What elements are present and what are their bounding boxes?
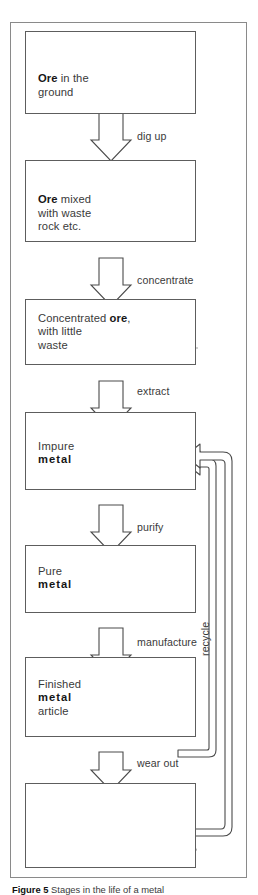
transition-label-manufacture: manufacture (137, 636, 197, 648)
stage-label-bold: metal (38, 691, 72, 703)
stage-box-worn-out-article[interactable] (25, 783, 196, 868)
stage-label-pre: Concentrated (38, 312, 110, 324)
stage-label-bold: Ore (38, 72, 58, 84)
stage-label-ore-in-ground: Ore in the ground (38, 59, 89, 99)
stage-label-finished-article: Finished metal article (38, 678, 81, 718)
transition-label-purify: purify (137, 521, 164, 533)
stage-label-bold: metal (38, 453, 72, 465)
stage-label-ore-with-waste: Ore mixed with waste rock etc. (38, 180, 91, 234)
stage-label-bold: ore (110, 312, 128, 324)
stage-label-bold: metal (38, 578, 72, 590)
transition-label-extract: extract (137, 385, 170, 397)
stage-label-pre: Finished (38, 678, 81, 690)
stage-label-impure-metal: Impure metal (38, 440, 75, 467)
recycle-label: recycle (199, 622, 211, 656)
transition-label-concentrate: concentrate (137, 274, 193, 286)
stage-label-pure-metal: Pure metal (38, 565, 72, 592)
transition-label-dig-up: dig up (137, 130, 166, 142)
figure-caption-text: Stages in the life of a metal (51, 884, 164, 895)
stage-label-bold: Ore (38, 193, 58, 205)
transition-label-wear-out: wear out (137, 757, 178, 769)
stage-label-concentrated-ore: Concentrated ore, with little waste (38, 312, 131, 352)
stage-label-rest: article (38, 705, 69, 717)
stage-label-pre: Impure (38, 440, 75, 452)
figure-caption: Figure 5 Stages in the life of a metal (12, 884, 252, 895)
figure-caption-prefix: Figure 5 (12, 884, 48, 895)
stage-label-pre: Pure (38, 565, 62, 577)
